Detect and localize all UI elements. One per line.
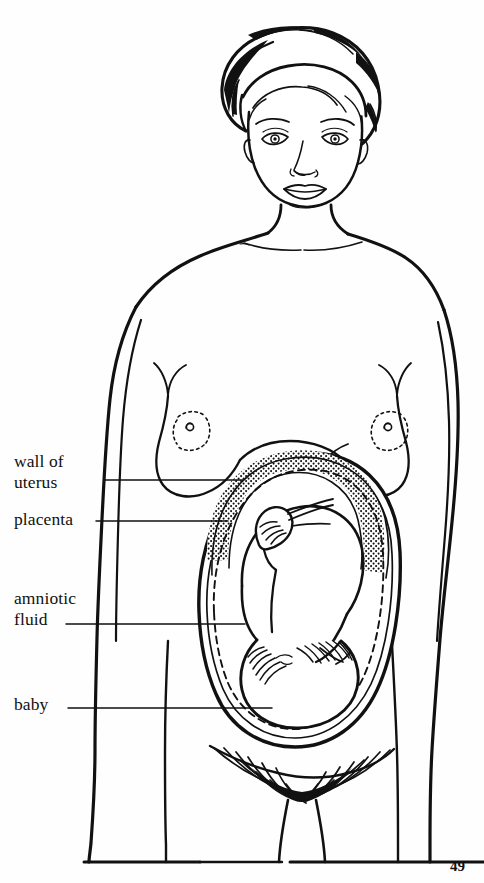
label-amniotic-fluid: amnioticfluid (14, 588, 76, 629)
neck-and-shoulders (136, 205, 444, 310)
label-wall-of-uterus: wall ofuterus (14, 451, 64, 492)
label-amniotic-fluid-line1: amniotic (14, 588, 76, 608)
label-baby: baby (14, 694, 48, 715)
label-amniotic-fluid-line2: fluid (14, 609, 48, 629)
pubic-hair (210, 746, 394, 862)
label-placenta-line1: placenta (14, 509, 73, 529)
label-placenta: placenta (14, 509, 73, 530)
label-baby-line1: baby (14, 694, 48, 714)
page-number: 49 (450, 858, 465, 875)
illustration-page: wall ofuterus placenta amnioticfluid bab… (0, 0, 484, 883)
label-wall-of-uterus-line2: uterus (14, 472, 57, 492)
label-wall-of-uterus-line1: wall of (14, 451, 64, 471)
anatomy-figure (0, 0, 484, 883)
